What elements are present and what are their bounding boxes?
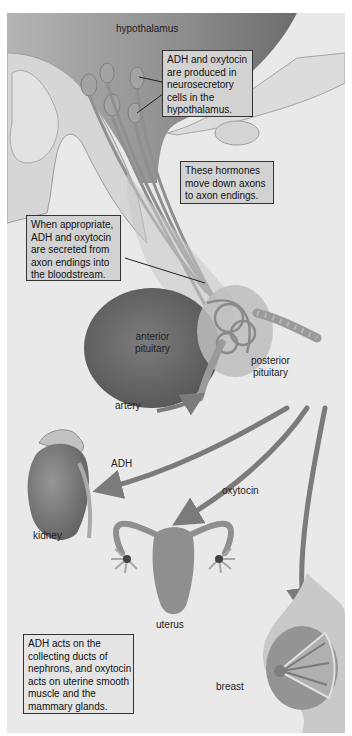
label-adh: ADH bbox=[111, 458, 132, 470]
label-uterus: uterus bbox=[156, 619, 184, 631]
callout-production-line: hypothalamus. bbox=[167, 104, 248, 117]
callout-transport: These hormones move down axons to axon e… bbox=[180, 161, 274, 204]
breast-organ bbox=[263, 573, 345, 733]
label-anterior-line-2: pituitary bbox=[135, 343, 170, 355]
callout-secretion-line: When appropriate, bbox=[31, 219, 116, 232]
label-anterior-line-1: anterior bbox=[135, 331, 170, 343]
callout-action-line: ADH acts on the bbox=[28, 638, 129, 651]
callout-production-line: neurosecretory bbox=[167, 79, 248, 92]
callout-transport-line: to axon endings. bbox=[185, 190, 269, 203]
label-breast: breast bbox=[216, 681, 244, 693]
hormone-arrows bbox=[107, 408, 325, 603]
callout-action-line: mammary glands. bbox=[28, 701, 129, 714]
label-posterior-pituitary: posterior pituitary bbox=[251, 355, 290, 379]
diagram-canvas: hypothalamus anterior pituitary posterio… bbox=[7, 13, 345, 733]
adh-arrow bbox=[107, 408, 287, 488]
label-posterior-line-1: posterior bbox=[251, 355, 290, 367]
callout-secretion-line: are secreted from bbox=[31, 244, 116, 257]
uterus-organ bbox=[111, 524, 235, 614]
hypothalamus-tissue bbox=[7, 13, 345, 243]
callout-action-line: acts on uterine smooth bbox=[28, 676, 129, 689]
callout-action: ADH acts on the collecting ducts of neph… bbox=[23, 634, 134, 714]
label-anterior-pituitary: anterior pituitary bbox=[135, 331, 170, 355]
label-posterior-line-2: pituitary bbox=[251, 367, 290, 379]
callout-action-line: muscle and the bbox=[28, 688, 129, 701]
callout-secretion: When appropriate, ADH and oxytocin are s… bbox=[26, 215, 121, 281]
callout-action-line: collecting ducts of bbox=[28, 651, 129, 664]
callout-action-line: nephrons, and oxytocin bbox=[28, 663, 129, 676]
callout-secretion-line: axon endings into bbox=[31, 257, 116, 270]
callout-production-line: cells in the bbox=[167, 92, 248, 105]
callout-production-line: ADH and oxytocin bbox=[167, 54, 248, 67]
oxytocin-breast-arrow bbox=[302, 408, 325, 603]
callout-transport-line: move down axons bbox=[185, 178, 269, 191]
label-oxytocin: oxytocin bbox=[222, 485, 259, 497]
callout-production: ADH and oxytocin are produced in neurose… bbox=[162, 50, 253, 117]
callout-secretion-line: the bloodstream. bbox=[31, 269, 116, 282]
kidney-organ bbox=[28, 430, 90, 540]
callout-transport-line: These hormones bbox=[185, 165, 269, 178]
label-artery: artery bbox=[115, 400, 141, 412]
label-kidney: kidney bbox=[33, 530, 62, 542]
callout-production-line: are produced in bbox=[167, 67, 248, 80]
label-hypothalamus: hypothalamus bbox=[116, 23, 178, 35]
oxytocin-uterus-arrow bbox=[185, 408, 307, 518]
callout-secretion-line: ADH and oxytocin bbox=[31, 232, 116, 245]
